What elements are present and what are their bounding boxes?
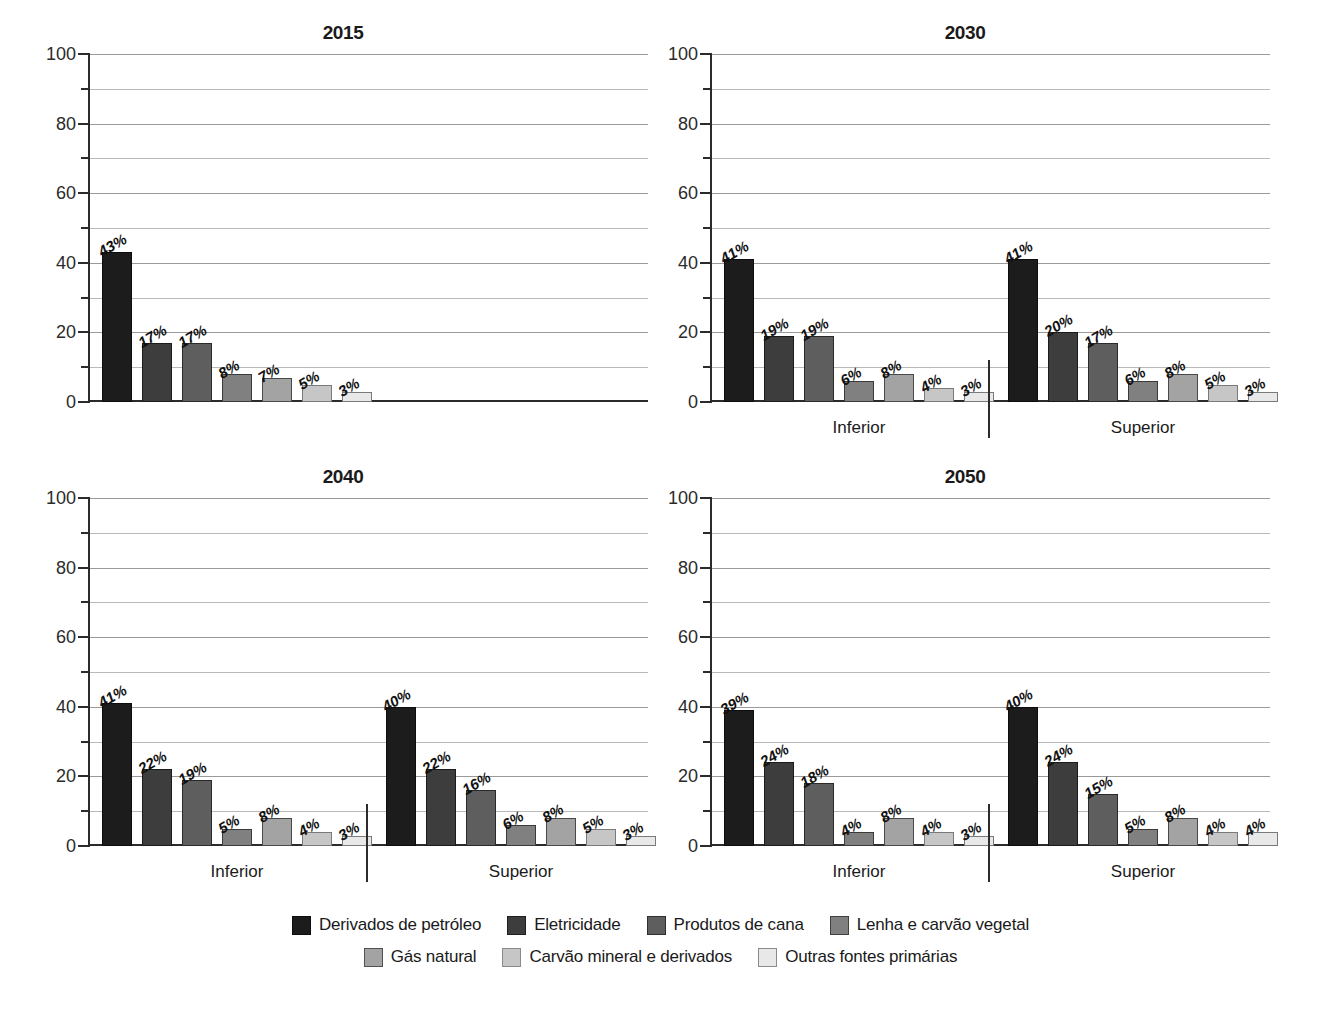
y-axis-label: 20 xyxy=(56,767,76,785)
bar-produtos_cana xyxy=(804,336,834,402)
group-separator xyxy=(988,360,990,438)
gridline xyxy=(712,89,1270,90)
y-axis-label: 0 xyxy=(66,393,76,411)
y-axis-label: 80 xyxy=(678,115,698,133)
gridline xyxy=(90,54,648,55)
group-separator xyxy=(988,804,990,882)
legend-swatch-icon xyxy=(647,916,666,935)
gridline xyxy=(90,298,648,299)
chart-panel-2015: 201502040608010043%17%17%8%7%5%3% xyxy=(28,22,658,460)
bar-derivados_petroleo xyxy=(1008,259,1038,402)
legend-row-primary: Derivados de petróleoEletricidadeProduto… xyxy=(0,915,1321,935)
panel-title: 2030 xyxy=(650,22,1280,44)
y-axis-label: 80 xyxy=(56,559,76,577)
panel-title: 2040 xyxy=(28,466,658,488)
gridline xyxy=(90,533,648,534)
y-axis-label: 20 xyxy=(56,323,76,341)
y-axis-label: 100 xyxy=(668,45,698,63)
plot-area: 02040608010039%24%18%4%8%4%3%Inferior40%… xyxy=(710,498,1270,846)
y-axis-label: 60 xyxy=(678,628,698,646)
gridline xyxy=(712,298,1270,299)
bar-produtos_cana xyxy=(804,783,834,846)
y-axis-label: 100 xyxy=(46,489,76,507)
gridline xyxy=(712,158,1270,159)
gridline xyxy=(90,193,648,194)
gridline xyxy=(90,158,648,159)
legend-swatch-icon xyxy=(502,948,521,967)
plot-area: 02040608010043%17%17%8%7%5%3% xyxy=(88,54,648,402)
group-label-inferior: Inferior xyxy=(102,862,372,882)
bar-eletricidade xyxy=(426,769,456,846)
y-axis-label: 40 xyxy=(678,698,698,716)
bar-derivados_petroleo xyxy=(1008,707,1038,846)
legend-swatch-icon xyxy=(364,948,383,967)
chart-legend: Derivados de petróleoEletricidadeProduto… xyxy=(0,915,1321,967)
legend-item-gas_natural: Gás natural xyxy=(364,947,477,967)
plot-area: 02040608010041%19%19%6%8%4%3%Inferior41%… xyxy=(710,54,1270,402)
gridline xyxy=(712,498,1270,499)
bar-derivados_petroleo xyxy=(102,703,132,846)
bar-derivados_petroleo xyxy=(724,710,754,846)
gridline xyxy=(712,54,1270,55)
gridline xyxy=(712,533,1270,534)
bar-derivados_petroleo xyxy=(724,259,754,402)
bar-produtos_cana xyxy=(1088,794,1118,846)
y-axis-label: 80 xyxy=(56,115,76,133)
bar-eletricidade xyxy=(764,336,794,402)
gridline xyxy=(712,124,1270,125)
bar-eletricidade xyxy=(1048,762,1078,846)
group-label-superior: Superior xyxy=(386,862,656,882)
bar-eletricidade xyxy=(764,762,794,846)
y-axis-line xyxy=(88,54,90,402)
bar-eletricidade xyxy=(142,343,172,402)
y-axis-label: 40 xyxy=(56,698,76,716)
gridline xyxy=(90,498,648,499)
legend-swatch-icon xyxy=(507,916,526,935)
group-label-inferior: Inferior xyxy=(724,862,994,882)
gridline xyxy=(90,568,648,569)
group-separator xyxy=(366,804,368,882)
gridline xyxy=(712,602,1270,603)
gridline xyxy=(712,228,1270,229)
y-axis-label: 40 xyxy=(678,254,698,272)
gridline xyxy=(90,263,648,264)
legend-item-produtos_cana: Produtos de cana xyxy=(647,915,804,935)
bar-produtos_cana xyxy=(1088,343,1118,402)
legend-item-lenha_carvao_vegetal: Lenha e carvão vegetal xyxy=(830,915,1029,935)
gridline xyxy=(90,672,648,673)
legend-row-secondary: Gás naturalCarvão mineral e derivadosOut… xyxy=(0,947,1321,967)
y-axis-label: 100 xyxy=(46,45,76,63)
gridline xyxy=(90,89,648,90)
gridline xyxy=(90,776,648,777)
gridline xyxy=(90,742,648,743)
gridline xyxy=(90,602,648,603)
y-axis-line xyxy=(710,54,712,402)
legend-label: Derivados de petróleo xyxy=(319,915,481,935)
legend-label: Produtos de cana xyxy=(674,915,804,935)
group-label-inferior: Inferior xyxy=(724,418,994,438)
chart-panel-2030: 203002040608010041%19%19%6%8%4%3%Inferio… xyxy=(650,22,1280,460)
plot-area: 02040608010041%22%19%5%8%4%3%Inferior40%… xyxy=(88,498,648,846)
legend-item-derivados_petroleo: Derivados de petróleo xyxy=(292,915,481,935)
legend-swatch-icon xyxy=(292,916,311,935)
y-axis-label: 40 xyxy=(56,254,76,272)
legend-item-carvao_mineral: Carvão mineral e derivados xyxy=(502,947,732,967)
bar-produtos_cana xyxy=(466,790,496,846)
legend-item-outras_fontes: Outras fontes primárias xyxy=(758,947,957,967)
legend-label: Carvão mineral e derivados xyxy=(529,947,732,967)
legend-swatch-icon xyxy=(758,948,777,967)
legend-label: Gás natural xyxy=(391,947,477,967)
bar-derivados_petroleo xyxy=(386,707,416,846)
y-axis-line xyxy=(710,498,712,846)
gridline xyxy=(90,637,648,638)
bar-derivados_petroleo xyxy=(102,252,132,402)
y-axis-line xyxy=(88,498,90,846)
gridline xyxy=(712,332,1270,333)
gridline xyxy=(712,742,1270,743)
bar-eletricidade xyxy=(1048,332,1078,402)
gridline xyxy=(712,672,1270,673)
bar-produtos_cana xyxy=(182,780,212,846)
legend-label: Lenha e carvão vegetal xyxy=(857,915,1029,935)
panel-title: 2050 xyxy=(650,466,1280,488)
chart-panel-2040: 204002040608010041%22%19%5%8%4%3%Inferio… xyxy=(28,466,658,904)
